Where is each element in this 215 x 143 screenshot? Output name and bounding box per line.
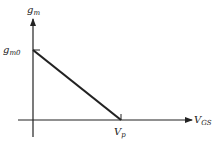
gm0-label: gm0 xyxy=(3,44,21,57)
y-axis-label: gm xyxy=(27,4,40,17)
x-axis-label: VGS xyxy=(194,114,212,127)
gm-vs-vgs-diagram: gm gm0 Vp VGS xyxy=(0,0,215,143)
gm-line xyxy=(33,50,121,120)
vp-label: Vp xyxy=(114,126,126,139)
